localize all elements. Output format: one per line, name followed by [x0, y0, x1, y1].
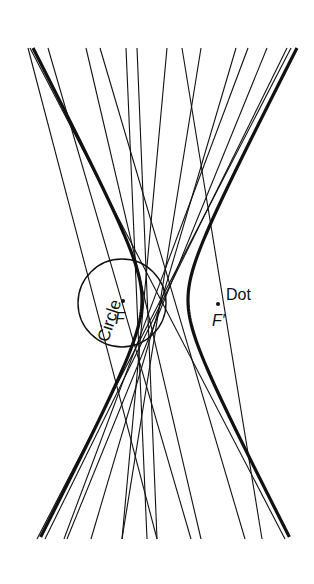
hyperbola-left-branch [33, 48, 142, 537]
tangent-line [137, 48, 157, 539]
dot-label: Dot [226, 286, 251, 303]
hyperbola-envelope-diagram: Circle F Dot F′ [0, 0, 314, 584]
tangent-line [64, 48, 248, 539]
focus-f-prime-dot [216, 302, 220, 306]
tangent-line [28, 48, 157, 539]
focus-f-prime-label: F′ [212, 312, 226, 329]
focus-f-dot [121, 299, 125, 303]
tangent-line [100, 48, 245, 539]
focus-f-label: F [115, 310, 126, 327]
